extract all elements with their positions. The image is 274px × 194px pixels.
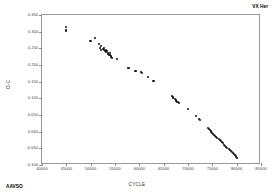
plot-area: -0.100-0.0500.0000.0500.1000.1500.2000.2… bbox=[41, 14, 260, 164]
data-point bbox=[128, 67, 130, 69]
x-tick-label: 60000 bbox=[134, 167, 145, 171]
data-point bbox=[94, 37, 96, 39]
x-tick-label: 40000 bbox=[36, 167, 47, 171]
x-tick-label: 70000 bbox=[182, 167, 193, 171]
x-tick-label: 85000 bbox=[255, 167, 266, 171]
data-point bbox=[199, 119, 201, 121]
y-tick-mark bbox=[39, 82, 42, 83]
x-tick-label: 80000 bbox=[231, 167, 242, 171]
star-name-annotation: VX Her bbox=[252, 4, 268, 9]
data-point bbox=[236, 157, 238, 159]
y-tick-mark bbox=[39, 65, 42, 66]
y-tick-mark bbox=[39, 15, 42, 16]
y-tick-mark bbox=[39, 32, 42, 33]
data-point bbox=[116, 58, 118, 60]
y-tick-mark bbox=[39, 48, 42, 49]
x-tick-label: 50000 bbox=[85, 167, 96, 171]
data-point bbox=[90, 40, 92, 42]
x-tick-label: 45000 bbox=[61, 167, 72, 171]
y-tick-label: -0.050 bbox=[26, 146, 38, 150]
y-tick-label: 0.250 bbox=[28, 46, 38, 50]
x-tick-label: 65000 bbox=[158, 167, 169, 171]
data-point bbox=[178, 102, 180, 104]
data-point bbox=[147, 76, 149, 78]
data-point bbox=[141, 72, 143, 74]
data-point bbox=[153, 80, 155, 82]
data-point bbox=[65, 30, 67, 32]
y-tick-label: 0.100 bbox=[28, 96, 38, 100]
y-tick-label: 0.150 bbox=[28, 80, 38, 84]
y-tick-label: 0.000 bbox=[28, 130, 38, 134]
y-axis-title: O-C bbox=[6, 80, 11, 89]
y-tick-label: 0.050 bbox=[28, 113, 38, 117]
data-point bbox=[135, 70, 137, 72]
y-tick-label: 0.350 bbox=[28, 13, 38, 17]
y-tick-label: 0.200 bbox=[28, 63, 38, 67]
oc-diagram-chart: -0.100-0.0500.0000.0500.1000.1500.2000.2… bbox=[0, 0, 274, 194]
data-point bbox=[187, 108, 189, 110]
y-tick-label: 0.300 bbox=[28, 30, 38, 34]
x-tick-label: 75000 bbox=[207, 167, 218, 171]
y-tick-mark bbox=[39, 98, 42, 99]
y-tick-mark bbox=[39, 132, 42, 133]
y-tick-mark bbox=[39, 148, 42, 149]
x-tick-label: 55000 bbox=[109, 167, 120, 171]
x-axis-title: CYCLE bbox=[0, 182, 274, 187]
data-point bbox=[195, 115, 197, 117]
y-tick-mark bbox=[39, 115, 42, 116]
data-point bbox=[111, 57, 113, 59]
